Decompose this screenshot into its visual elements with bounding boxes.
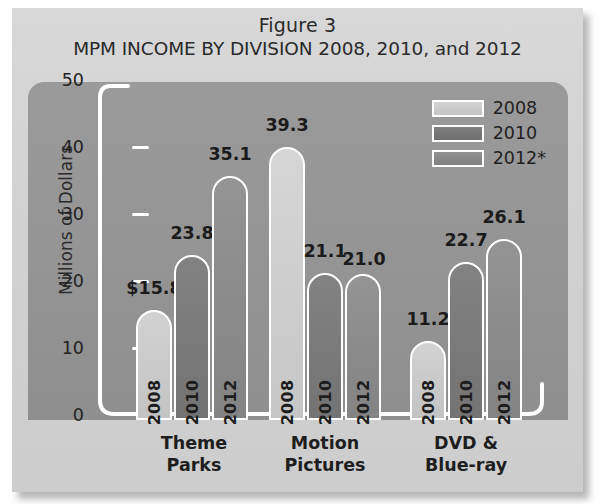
figure-number: Figure 3 <box>12 14 583 37</box>
category-label-dvd-bluray: DVD & Blue-ray <box>386 432 546 476</box>
bar-year-label: 2008 <box>145 380 164 426</box>
chart-screenshot: Figure 3 MPM INCOME BY DIVISION 2008, 20… <box>0 0 607 504</box>
legend-swatch-2010 <box>432 125 484 142</box>
legend-item-2010[interactable]: 2010 <box>432 123 546 143</box>
bar-value-dvd-bluray-2012: 26.1 <box>464 207 544 227</box>
legend-label-2010: 2010 <box>493 123 538 143</box>
bar-year-label: 2012 <box>354 380 373 426</box>
bar-theme-parks-2010[interactable]: 2010 <box>174 255 210 420</box>
plot-area: Millions of Dollars 50 40 30 20 10 0 200… <box>28 82 568 420</box>
bar-dvd-bluray-2010[interactable]: 2010 <box>448 262 484 420</box>
bar-dvd-bluray-2012[interactable]: 2012 <box>486 239 522 420</box>
category-label-motion-pictures: Motion Pictures <box>245 432 405 476</box>
category-axis: Theme Parks Motion Pictures DVD & Blue-r… <box>28 426 568 488</box>
bar-year-label: 2008 <box>278 380 297 426</box>
legend: 2008 2010 2012* <box>432 98 546 168</box>
legend-label-2008: 2008 <box>493 98 538 118</box>
legend-item-2012[interactable]: 2012* <box>432 148 546 168</box>
bar-year-label: 2012 <box>495 380 514 426</box>
bar-year-label: 2010 <box>316 380 335 426</box>
legend-label-2012: 2012* <box>493 148 546 168</box>
bar-year-label: 2010 <box>457 380 476 426</box>
bar-motion-pictures-2012[interactable]: 2012 <box>345 274 381 420</box>
bar-value-theme-parks-2012: 35.1 <box>190 144 270 164</box>
category-line2: Pictures <box>245 454 405 476</box>
bar-year-label: 2008 <box>419 380 438 426</box>
legend-item-2008[interactable]: 2008 <box>432 98 546 118</box>
bar-value-motion-pictures-2012: 21.0 <box>324 249 404 269</box>
category-line2: Blue-ray <box>386 454 546 476</box>
figure-title-block: Figure 3 MPM INCOME BY DIVISION 2008, 20… <box>12 14 583 61</box>
legend-swatch-2012 <box>432 150 484 167</box>
category-line1: Motion <box>245 432 405 454</box>
bar-year-label: 2012 <box>221 380 240 426</box>
bar-theme-parks-2012[interactable]: 2012 <box>212 176 248 420</box>
page-title: MPM INCOME BY DIVISION 2008, 2010, and 2… <box>12 37 583 61</box>
bar-theme-parks-2008[interactable]: 2008 <box>136 310 172 420</box>
bar-motion-pictures-2010[interactable]: 2010 <box>307 273 343 420</box>
legend-swatch-2008 <box>432 100 484 117</box>
bar-year-label: 2010 <box>183 380 202 426</box>
bar-dvd-bluray-2008[interactable]: 2008 <box>410 341 446 420</box>
bar-value-motion-pictures-2008: 39.3 <box>247 115 327 135</box>
bar-motion-pictures-2008[interactable]: 2008 <box>269 147 305 420</box>
category-line1: DVD & <box>386 432 546 454</box>
